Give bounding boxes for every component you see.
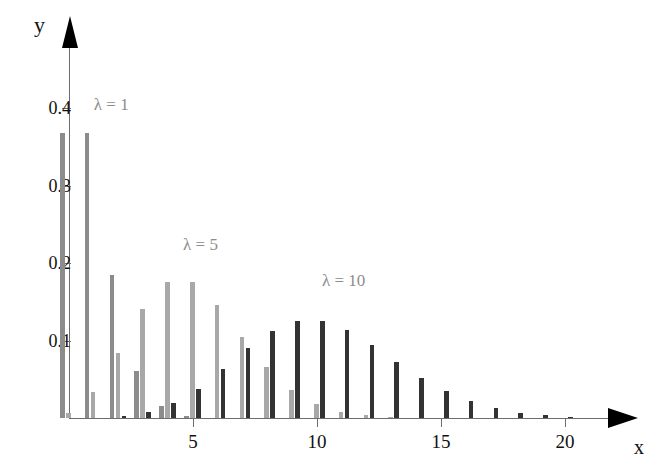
- bar: [264, 367, 269, 418]
- bar: [146, 412, 151, 418]
- bar: [543, 415, 548, 418]
- bar: [320, 321, 325, 418]
- bar: [60, 133, 65, 418]
- bar: [469, 401, 474, 418]
- bar: [66, 413, 71, 418]
- bar: [171, 403, 176, 418]
- bar: [494, 408, 499, 418]
- bar: [518, 413, 523, 419]
- bar: [364, 415, 369, 418]
- bar: [190, 282, 195, 418]
- bar: [444, 391, 449, 418]
- bar: [295, 321, 300, 418]
- bar: [116, 353, 121, 418]
- bar: [215, 305, 220, 418]
- bar: [122, 416, 127, 418]
- series-annotation-lambda-1: λ = 1: [94, 96, 129, 113]
- bar: [339, 412, 344, 418]
- bar: [134, 371, 139, 418]
- bar: [289, 390, 294, 418]
- bar: [419, 378, 424, 418]
- bar: [159, 406, 164, 418]
- bar: [221, 369, 226, 418]
- bar: [240, 337, 245, 418]
- poisson-distribution-chart: y x 0.10.20.30.4 5101520 λ = 1 λ = 5 λ =…: [0, 0, 659, 470]
- bar: [314, 404, 319, 418]
- bar: [91, 392, 96, 418]
- bar: [184, 416, 189, 418]
- series-annotation-lambda-10: λ = 10: [322, 272, 365, 289]
- bar: [246, 348, 251, 418]
- bar: [568, 417, 573, 418]
- bar: [196, 389, 201, 418]
- bar: [85, 133, 90, 418]
- bar: [394, 362, 399, 419]
- bar: [165, 282, 170, 418]
- bars-layer: [0, 0, 659, 470]
- bar: [370, 345, 375, 418]
- bar: [110, 275, 115, 418]
- bar: [388, 417, 393, 418]
- bar: [270, 331, 275, 418]
- bar: [140, 309, 145, 418]
- series-annotation-lambda-5: λ = 5: [183, 236, 218, 253]
- bar: [345, 330, 350, 418]
